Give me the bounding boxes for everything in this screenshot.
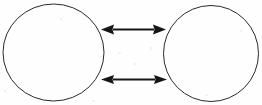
upper-arrow-head-right: [153, 25, 166, 35]
lower-arrow-shaft: [113, 79, 155, 81]
diagram-canvas: Two circles connected by two bidirection…: [0, 0, 262, 105]
lower-arrow-head-left: [101, 75, 114, 84]
lower-arrow-head-right: [154, 75, 167, 84]
diagram-svg: Two circles connected by two bidirection…: [0, 0, 262, 105]
left-circle: [3, 4, 104, 101]
upper-arrow-head-left: [101, 25, 114, 35]
right-circle: [164, 6, 259, 102]
upper-bidirectional-arrow: [101, 25, 166, 35]
upper-arrow-shaft: [113, 29, 154, 31]
lower-bidirectional-arrow: [101, 75, 167, 84]
